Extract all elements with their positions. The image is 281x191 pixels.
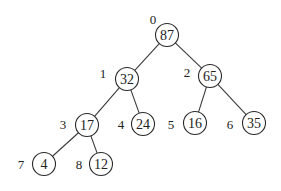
- node-value: 32: [120, 72, 134, 87]
- node-value: 4: [41, 157, 48, 172]
- tree-edge: [131, 90, 139, 113]
- node-index-label: 5: [168, 117, 175, 132]
- tree-nodes: 87326517241635412: [33, 24, 266, 176]
- tree-edge: [91, 136, 97, 153]
- node-value: 16: [188, 116, 202, 131]
- node-index-label: 4: [118, 117, 125, 132]
- node-value: 12: [94, 157, 108, 172]
- heap-tree-diagram: 87326517241635412 012345678: [0, 0, 281, 191]
- tree-edge: [218, 84, 246, 114]
- tree-edge: [135, 44, 160, 71]
- tree-edge: [53, 133, 79, 157]
- tree-edges: [53, 43, 247, 156]
- node-index-label: 8: [76, 157, 83, 172]
- tree-node: 4: [33, 153, 56, 176]
- tree-node: 35: [243, 112, 266, 135]
- node-value: 24: [136, 117, 150, 132]
- node-value: 87: [160, 28, 174, 43]
- index-labels: 012345678: [18, 12, 234, 172]
- tree-node: 17: [76, 114, 99, 137]
- tree-node: 65: [199, 65, 222, 88]
- tree-node: 16: [184, 112, 207, 135]
- node-index-label: 3: [60, 117, 67, 132]
- node-index-label: 0: [150, 12, 157, 27]
- tree-edge: [198, 87, 206, 112]
- node-index-label: 7: [18, 157, 25, 172]
- node-index-label: 6: [227, 117, 234, 132]
- node-index-label: 2: [184, 65, 191, 80]
- tree-node: 87: [156, 24, 179, 47]
- tree-node: 24: [132, 113, 155, 136]
- tree-edge: [95, 88, 120, 117]
- node-value: 65: [203, 69, 217, 84]
- tree-node: 12: [90, 153, 113, 176]
- node-index-label: 1: [100, 66, 107, 81]
- tree-node: 32: [116, 68, 139, 91]
- node-value: 17: [80, 118, 94, 133]
- node-value: 35: [247, 116, 261, 131]
